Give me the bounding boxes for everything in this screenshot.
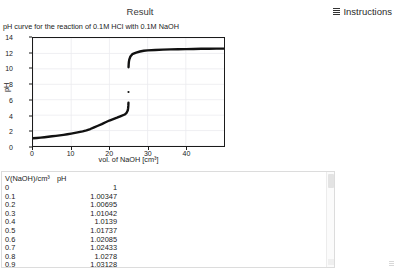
table-scroll-area[interactable]: V(NaOH)/cm³ pH 010.11.003470.21.006950.3…	[2, 172, 328, 267]
ph-data-table: V(NaOH)/cm³ pH 010.11.003470.21.006950.3…	[5, 174, 117, 267]
y-tick-mark	[29, 131, 32, 132]
column-header-volume: V(NaOH)/cm³	[5, 174, 51, 184]
cell-volume: 0.9	[5, 261, 51, 267]
x-tick-mark	[186, 147, 187, 150]
scrollbar-down-arrow[interactable]	[328, 259, 334, 265]
y-tick-label: 4	[0, 112, 13, 119]
y-tick-mark	[29, 99, 32, 100]
chart-title: pH curve for the reaction of 0.1M HCl wi…	[3, 22, 179, 31]
app-header: Result Instructions	[0, 0, 398, 22]
x-tick-mark	[109, 147, 110, 150]
cell-ph: 1.03128	[51, 261, 117, 267]
y-tick-mark	[29, 37, 32, 38]
x-tick-mark	[148, 147, 149, 150]
y-tick-mark	[29, 115, 32, 116]
instructions-button[interactable]: Instructions	[333, 6, 392, 17]
scrollbar-thumb[interactable]	[328, 174, 334, 188]
x-axis-label: vol. of NaOH [cm³]	[32, 155, 225, 164]
instructions-label: Instructions	[343, 6, 392, 17]
page-title: Result	[0, 6, 280, 17]
ph-curve-chart: pH curve for the reaction of 0.1M HCl wi…	[0, 22, 240, 165]
x-tick-mark	[32, 147, 33, 150]
y-tick-label: 10	[0, 65, 13, 72]
y-tick-label: 8	[0, 81, 13, 88]
y-tick-label: 2	[0, 128, 13, 135]
table-header-row: V(NaOH)/cm³ pH	[5, 174, 117, 184]
y-tick-mark	[29, 68, 32, 69]
y-tick-label: 12	[0, 49, 13, 56]
y-tick-label: 0	[0, 144, 13, 151]
column-header-ph: pH	[51, 174, 117, 184]
table-scrollbar[interactable]	[326, 172, 334, 267]
y-tick-label: 6	[0, 96, 13, 103]
data-series	[33, 49, 224, 139]
data-table-panel: V(NaOH)/cm³ pH 010.11.003470.21.006950.3…	[1, 171, 335, 268]
corner-resize-handle	[389, 261, 394, 267]
y-tick-mark	[29, 84, 32, 85]
x-tick-mark	[71, 147, 72, 150]
y-tick-label: 14	[0, 34, 13, 41]
table-row: 0.91.03128	[5, 261, 117, 267]
y-tick-mark	[29, 52, 32, 53]
plot-area	[32, 37, 225, 147]
hamburger-icon	[333, 8, 340, 15]
curve-svg	[33, 38, 224, 146]
table-body: 010.11.003470.21.006950.31.010420.41.013…	[5, 184, 117, 267]
